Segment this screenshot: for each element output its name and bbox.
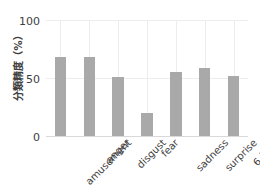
bar-amusement (55, 57, 67, 136)
bar-surprise (199, 68, 211, 136)
bar-sadness (170, 72, 182, 136)
x-axis-tick-label-1: anger (104, 137, 132, 165)
y-axis-title: 分類精度（%） (10, 11, 25, 121)
bar-series (46, 20, 248, 136)
y-axis-tick-label-0: 0 (8, 131, 40, 144)
bar-disgust (112, 77, 124, 136)
bar-chart-figure: 100 50 0 分類精度（%） amusementangerdisgustfe… (0, 0, 260, 196)
x-axis-tick-labels: amusementangerdisgustfearsadnesssurprise… (46, 137, 248, 196)
bar-6-情動 (228, 76, 240, 136)
plot-area (46, 20, 248, 136)
bar-anger (84, 57, 96, 136)
bar-fear (141, 113, 153, 136)
